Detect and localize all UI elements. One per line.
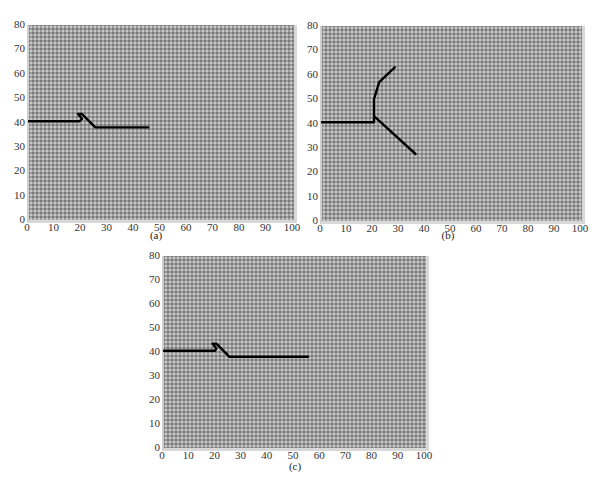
series-line-crack-path	[164, 344, 308, 357]
y-tick-label: 80	[140, 250, 160, 261]
y-tick-label: 60	[140, 298, 160, 309]
x-tick-label: 90	[386, 450, 410, 461]
x-tick-label: 80	[360, 450, 384, 461]
x-tick-label: 40	[255, 450, 279, 461]
x-tick-label: 70	[333, 450, 357, 461]
y-tick-label: 30	[140, 370, 160, 381]
y-tick-label: 20	[140, 394, 160, 405]
y-tick-label: 70	[140, 274, 160, 285]
x-tick-label: 30	[229, 450, 253, 461]
x-tick-label: 0	[150, 450, 174, 461]
plot-area-c	[162, 256, 429, 451]
chart-panel-c: 010203040506070800102030405060708090100 …	[0, 0, 603, 481]
x-tick-label: 10	[176, 450, 200, 461]
x-tick-label: 20	[202, 450, 226, 461]
y-tick-label: 10	[140, 418, 160, 429]
y-tick-label: 40	[140, 346, 160, 357]
plot-lines-c	[164, 256, 426, 448]
y-tick-label: 50	[140, 322, 160, 333]
x-tick-label: 100	[412, 450, 436, 461]
x-tick-label: 60	[307, 450, 331, 461]
caption-c: (c)	[280, 460, 310, 472]
